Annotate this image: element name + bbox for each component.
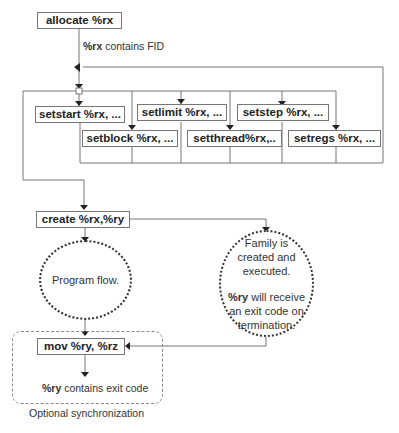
program-flow-label: Program flow. xyxy=(52,273,119,287)
fid-note-text: contains FID xyxy=(102,40,164,52)
setstep-box: setstep %rx, ... xyxy=(237,104,329,121)
setblock-box: setblock %rx, ... xyxy=(82,130,178,147)
setstart-box: setstart %rx, ... xyxy=(35,106,125,123)
junction-node xyxy=(76,88,82,94)
family-line-1: Family is xyxy=(228,236,305,250)
mov-box: mov %ry, %rz xyxy=(37,338,125,355)
family-register: %ry xyxy=(228,291,248,303)
family-node: Family is created and executed. %ry will… xyxy=(219,230,314,337)
family-line-5: an exit code on xyxy=(228,304,305,318)
exit-note: %ry contains exit code xyxy=(42,382,148,394)
family-line-2: created and xyxy=(228,250,305,264)
setthread-box: setthread%rx,.. xyxy=(187,130,282,147)
exit-note-text: contains exit code xyxy=(61,382,148,394)
exit-note-register: %ry xyxy=(42,382,61,394)
fid-note: %rx contains FID xyxy=(83,40,164,52)
family-line-3: executed. xyxy=(228,264,305,278)
fid-note-register: %rx xyxy=(83,40,102,52)
program-flow-node: Program flow. xyxy=(39,240,132,320)
allocate-box: allocate %rx xyxy=(37,12,122,29)
optional-sync-label: Optional synchronization xyxy=(29,407,144,419)
setlimit-box: setlimit %rx, ... xyxy=(137,104,227,121)
family-line-4: will receive xyxy=(248,291,305,303)
create-box: create %rx,%ry xyxy=(36,211,130,228)
setregs-box: setregs %rx, ... xyxy=(288,130,381,147)
family-line-6: termination. xyxy=(228,318,305,332)
